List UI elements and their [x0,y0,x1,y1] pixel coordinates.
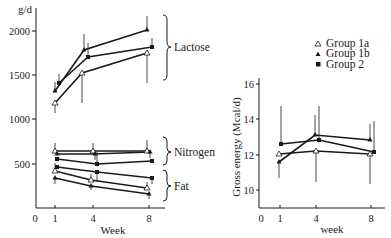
right-y-ticks: 16 14 12 10 [244,79,260,196]
left-xtick-0: 0 [32,213,37,224]
open-triangle-icon [315,41,321,46]
right-xtick-8: 8 [368,213,373,224]
right-ytick-10: 10 [244,185,255,196]
right-chart: Gross energy (Mcal/d) 16 14 12 10 0 1 4 … [230,37,385,235]
filled-square-icon [316,62,321,67]
right-ytick-12: 12 [244,150,255,161]
right-ytick-16: 16 [244,79,255,90]
left-ytick-2000: 2000 [9,26,30,37]
nitrogen-label: Nitrogen [174,146,215,159]
left-x-axis-label: Week [101,224,126,236]
nitrogen-series [55,140,152,164]
left-y-ticks: 2000 1500 1000 500 [9,26,36,170]
right-y-axis-label: Gross energy (Mcal/d) [230,97,243,197]
left-ytick-1000: 1000 [9,114,30,125]
lactose-series [55,16,152,113]
left-ytick-500: 500 [14,159,30,170]
filled-square-marker [57,81,61,85]
fat-label: Fat [174,180,190,192]
right-x-axis-label: week [320,223,344,235]
fat-series [55,163,152,199]
filled-triangle-marker [145,27,150,32]
lactose-label: Lactose [174,41,210,53]
right-ytick-14: 14 [244,114,255,125]
right-xtick-1: 1 [277,213,282,224]
left-chart: g/d 2000 1500 1000 500 0 1 4 8 Week [9,3,215,236]
group-braces [163,15,171,201]
left-xtick-8: 8 [146,213,151,224]
legend: Group 1a Group 1b Group 2 [315,37,370,71]
nitrogen-brace [163,137,171,165]
legend-group-2: Group 2 [326,58,364,71]
energy-series [279,106,374,184]
filled-triangle-icon [316,52,321,57]
filled-square-marker [150,45,154,49]
left-y-axis-unit: g/d [18,3,33,15]
fat-brace [163,170,171,201]
left-xtick-4: 4 [90,213,96,224]
right-xtick-4: 4 [313,213,319,224]
open-triangle-marker [144,50,150,55]
figure: g/d 2000 1500 1000 500 0 1 4 8 Week [0,0,391,238]
left-xtick-1: 1 [52,213,57,224]
filled-square-marker [86,55,90,59]
right-xtick-0: 0 [258,213,263,224]
left-ytick-1500: 1500 [9,70,30,81]
lactose-brace [163,15,171,80]
